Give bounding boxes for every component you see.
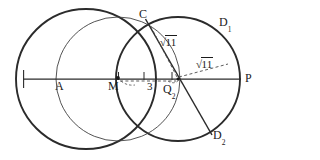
radicand-upper: 11 [165, 35, 177, 48]
point-dot-Q2 [177, 78, 180, 81]
measure-label-sqrt11-upper: √11 [160, 36, 177, 48]
measure-label-segment-3: 3 [147, 81, 153, 92]
dashed-arc-M [121, 81, 135, 85]
point-label-C: C [139, 8, 147, 20]
point-label-D1-base: D [219, 15, 228, 29]
point-label-A: A [55, 80, 64, 92]
point-label-D2-subscript: 2 [222, 138, 226, 147]
point-label-D2: D2 [213, 126, 225, 145]
point-label-Q2: Q2 [163, 80, 175, 99]
point-label-D1: D1 [219, 13, 231, 32]
point-label-D2-base: D [213, 128, 222, 142]
point-label-P: P [245, 72, 252, 84]
point-label-D1-subscript: 1 [228, 25, 232, 34]
point-label-Q2-subscript: 2 [172, 92, 176, 101]
point-label-M: M [108, 80, 119, 92]
measure-label-sqrt11-lower: √11 [196, 58, 213, 70]
point-label-Q2-base: Q [163, 82, 172, 96]
radicand-lower: 11 [201, 57, 213, 70]
